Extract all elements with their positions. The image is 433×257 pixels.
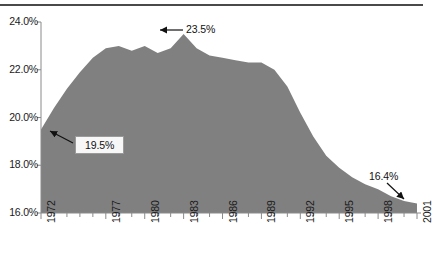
annotation-start-label: 19.5%: [75, 136, 124, 154]
y-axis-tick-label: 20.0%: [0, 111, 38, 123]
x-axis-tick-label: 1972: [45, 200, 57, 223]
x-axis-tick-label: 1998: [382, 200, 394, 223]
x-axis-tick-label: 1983: [188, 200, 200, 223]
x-axis-tick-label: 1989: [265, 200, 277, 223]
y-axis-tick-label: 18.0%: [0, 158, 38, 170]
x-axis-tick-label: 2001: [421, 200, 433, 223]
x-axis-tick-label: 1995: [343, 200, 355, 223]
area-series-group: [41, 34, 417, 213]
x-axis-tick-label: 1992: [304, 200, 316, 223]
y-axis-tick-label: 16.0%: [0, 206, 38, 218]
x-axis-tick-label: 1977: [110, 200, 122, 223]
x-axis-tick-label: 1986: [227, 200, 239, 223]
x-axis-tick-label: 1980: [149, 200, 161, 223]
y-axis-tick-label: 24.0%: [0, 15, 38, 27]
y-axis-tick-label: 22.0%: [0, 63, 38, 75]
y-axis-tick-labels: 24.0%22.0%20.0%18.0%16.0%: [0, 0, 38, 257]
annotation-peak-label: 23.5%: [186, 23, 215, 35]
annotation-end-label: 16.4%: [369, 170, 398, 182]
